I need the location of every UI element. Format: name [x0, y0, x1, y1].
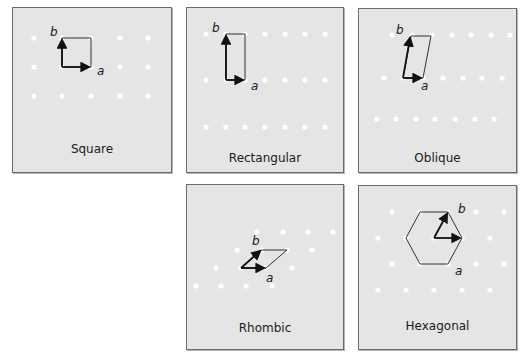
lattice-point: [262, 124, 267, 129]
lattice-point: [302, 77, 307, 82]
lattice-point: [322, 124, 327, 129]
vector-b-label: b: [50, 25, 58, 39]
lattice-point: [440, 75, 445, 80]
lattice-point: [280, 229, 285, 234]
lattice-square: ab: [31, 25, 150, 99]
lattice-point: [472, 116, 477, 121]
lattice-point: [117, 64, 122, 69]
vector-a-label: a: [251, 79, 258, 93]
lattice-point: [409, 32, 414, 37]
lattice-point: [31, 93, 36, 98]
lattice-point: [223, 124, 228, 129]
lattice-point: [487, 287, 492, 292]
lattice-point: [473, 261, 478, 266]
vector-a-label: a: [421, 79, 428, 93]
vector-b-label: b: [252, 234, 260, 248]
lattice-point: [375, 235, 380, 240]
lattice-point: [501, 261, 506, 266]
lattice-point: [193, 283, 198, 288]
lattice-point: [330, 229, 335, 234]
lattice-point: [117, 35, 122, 40]
lattice-point: [31, 35, 36, 40]
unit-cell-outline: [62, 38, 91, 67]
lattice-point: [431, 287, 436, 292]
lattice-point: [487, 235, 492, 240]
lattice-point: [289, 265, 294, 270]
lattice-point: [59, 93, 64, 98]
lattice-oblique: ab: [374, 23, 512, 122]
lattice-point: [449, 32, 454, 37]
lattice-point: [375, 287, 380, 292]
lattice-point: [413, 116, 418, 121]
lattice-point: [491, 116, 496, 121]
lattice-point: [374, 116, 379, 121]
lattice-point: [389, 32, 394, 37]
lattice-point: [262, 77, 267, 82]
unit-cell-outline: [226, 34, 245, 80]
lattice-point: [203, 31, 208, 36]
lattice-point: [145, 93, 150, 98]
lattice-point: [302, 124, 307, 129]
lattice-point: [389, 209, 394, 214]
vector-b-label: b: [396, 23, 404, 37]
lattice-point: [309, 247, 314, 252]
lattice-point: [322, 31, 327, 36]
lattice-point: [145, 64, 150, 69]
vector-a-label: a: [266, 271, 273, 285]
lattice-point: [262, 31, 267, 36]
lattice-point: [393, 116, 398, 121]
lattice-point: [473, 209, 478, 214]
lattice-point: [403, 287, 408, 292]
lattice-rhombic: ab: [193, 229, 335, 288]
lattice-point: [389, 261, 394, 266]
lattice-point: [302, 31, 307, 36]
lattice-point: [282, 31, 287, 36]
lattice-point: [234, 247, 239, 252]
unit-cell-outline: [241, 250, 287, 268]
lattice-point: [213, 265, 218, 270]
lattice-point: [460, 75, 465, 80]
lattice-point: [507, 32, 512, 37]
vector-b-label: b: [212, 21, 220, 35]
lattice-point: [282, 124, 287, 129]
lattice-point: [31, 64, 36, 69]
lattice-point: [488, 32, 493, 37]
lattice-point: [381, 75, 386, 80]
vector-b-arrow-icon: [434, 214, 447, 238]
lattice-point: [117, 93, 122, 98]
lattice-point: [282, 77, 287, 82]
lattice-point: [243, 283, 248, 288]
vector-b-label: b: [458, 202, 466, 216]
vector-a-label: a: [455, 264, 462, 278]
lattice-point: [145, 35, 150, 40]
lattice-point: [203, 124, 208, 129]
lattice-point: [432, 116, 437, 121]
lattice-point: [218, 283, 223, 288]
lattice-rectangular: ab: [203, 21, 327, 130]
lattice-point: [429, 32, 434, 37]
lattice-point: [322, 77, 327, 82]
lattice-point: [305, 229, 310, 234]
lattice-point: [242, 124, 247, 129]
lattice-hexagonal: ab: [375, 202, 506, 293]
lattice-point: [459, 287, 464, 292]
vector-a-label: a: [97, 64, 104, 78]
lattice-point: [452, 116, 457, 121]
lattice-drawings: ab ab ab ab ab: [0, 0, 530, 360]
lattice-point: [88, 93, 93, 98]
vector-b-arrow-icon: [241, 251, 260, 268]
lattice-point: [499, 75, 504, 80]
lattice-point: [468, 32, 473, 37]
lattice-point: [203, 77, 208, 82]
lattice-point: [479, 75, 484, 80]
lattice-point: [501, 209, 506, 214]
vector-b-arrow-icon: [403, 38, 410, 78]
